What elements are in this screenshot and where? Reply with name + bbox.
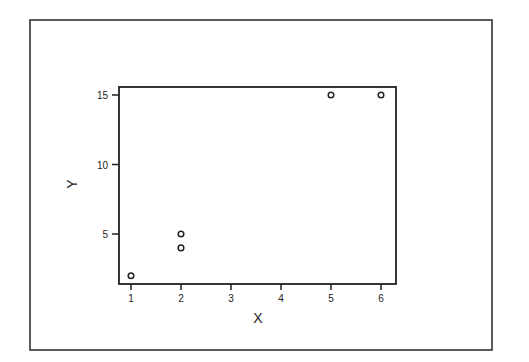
y-axis-label: Y xyxy=(64,179,80,189)
y-tick-label: 5 xyxy=(102,229,108,240)
scatter-figure: 123456 51015 X Y xyxy=(0,0,529,362)
data-point-marker xyxy=(378,92,384,98)
plot-area xyxy=(119,87,396,284)
data-point-marker xyxy=(128,273,134,279)
x-tick-label: 6 xyxy=(378,293,384,304)
y-tick-label: 15 xyxy=(97,90,109,101)
data-point-marker xyxy=(178,245,184,251)
x-tick-label: 5 xyxy=(328,293,334,304)
y-axis-ticks: 51015 xyxy=(97,90,119,240)
x-axis-ticks: 123456 xyxy=(128,284,384,304)
data-point-marker xyxy=(328,92,334,98)
x-tick-label: 2 xyxy=(178,293,184,304)
chart-canvas: 123456 51015 X Y xyxy=(0,0,529,362)
x-tick-label: 3 xyxy=(228,293,234,304)
x-tick-label: 1 xyxy=(128,293,134,304)
outer-frame xyxy=(30,20,492,350)
data-point-marker xyxy=(178,231,184,237)
x-tick-label: 4 xyxy=(278,293,284,304)
y-tick-label: 10 xyxy=(97,160,109,171)
x-axis-label: X xyxy=(253,310,263,326)
data-points xyxy=(128,92,384,278)
